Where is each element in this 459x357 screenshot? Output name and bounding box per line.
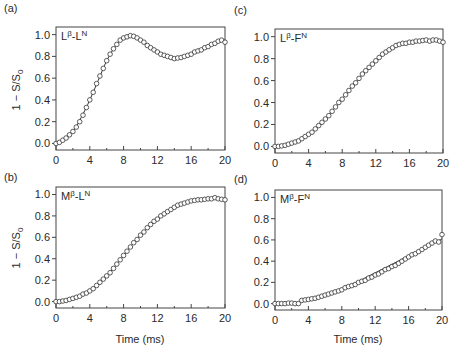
data-point xyxy=(347,88,352,93)
figure-canvas: (a)0.00.20.40.60.81.0048121620Lβ-LN(c)0.… xyxy=(0,0,459,357)
x-tick-label: 12 xyxy=(370,157,382,169)
x-tick-label: 12 xyxy=(151,154,163,166)
y-tick-label: 0.0 xyxy=(254,140,269,152)
data-points xyxy=(54,33,228,145)
x-tick-label: 12 xyxy=(151,312,163,324)
data-point xyxy=(436,240,441,245)
data-point xyxy=(333,105,338,110)
x-tick-label: 0 xyxy=(272,157,278,169)
x-tick-label: 16 xyxy=(403,157,415,169)
x-tick-label: 16 xyxy=(402,314,414,326)
series-annotation: Lβ-FN xyxy=(280,31,307,44)
x-tick-label: 4 xyxy=(87,154,93,166)
data-point xyxy=(327,113,332,118)
data-point xyxy=(74,125,79,130)
data-point xyxy=(125,249,130,254)
y-tick-label: 0.0 xyxy=(254,298,269,310)
chart-panel-a: (a)0.00.20.40.60.81.0048121620Lβ-LN xyxy=(4,2,231,166)
y-tick-label: 0.4 xyxy=(35,253,50,265)
data-points xyxy=(273,38,446,149)
data-point xyxy=(223,198,228,203)
y-tick-label: 0.8 xyxy=(254,53,269,65)
x-tick-label: 12 xyxy=(369,314,381,326)
y-tick-label: 0.6 xyxy=(35,72,50,84)
y-tick-label: 0.6 xyxy=(254,234,269,246)
x-tick-label: 4 xyxy=(305,314,311,326)
panel-label: (b) xyxy=(4,171,17,183)
y-tick-label: 1.0 xyxy=(35,188,50,200)
plot-frame xyxy=(275,29,443,153)
series-annotation: Mβ-LN xyxy=(61,189,91,202)
x-axis-label-right: Time (ms) xyxy=(333,333,382,345)
x-tick-label: 0 xyxy=(272,314,278,326)
data-point xyxy=(357,76,362,81)
data-point xyxy=(108,52,113,57)
data-point xyxy=(223,40,228,45)
y-tick-label: 0.2 xyxy=(35,274,50,286)
x-tick-label: 0 xyxy=(53,154,59,166)
chart-panel-c: (c)0.00.20.40.60.81.0048121620Lβ-FN xyxy=(234,4,449,169)
y-axis-label-top: 1 − S/S0 xyxy=(10,69,25,110)
fit-curve xyxy=(275,239,442,304)
x-tick-label: 20 xyxy=(219,312,231,324)
x-tick-label: 8 xyxy=(121,312,127,324)
data-point xyxy=(84,105,89,110)
x-tick-label: 16 xyxy=(185,312,197,324)
y-tick-label: 0.8 xyxy=(254,213,269,225)
data-point xyxy=(115,42,120,47)
y-tick-label: 1.0 xyxy=(254,31,269,43)
data-point xyxy=(135,237,140,242)
data-point xyxy=(128,245,133,250)
data-point xyxy=(330,109,335,114)
panels-container: (a)0.00.20.40.60.81.0048121620Lβ-LN(c)0.… xyxy=(4,2,449,326)
data-point xyxy=(94,81,99,86)
plot-frame xyxy=(56,27,225,150)
data-point xyxy=(340,97,345,102)
chart-panel-b: (b)0.00.20.40.60.81.0048121620Mβ-LN xyxy=(4,171,231,324)
x-tick-label: 20 xyxy=(219,154,231,166)
x-tick-label: 16 xyxy=(185,154,197,166)
data-point xyxy=(111,266,116,271)
data-point xyxy=(108,270,113,275)
y-tick-label: 0.2 xyxy=(35,116,50,128)
x-tick-label: 4 xyxy=(306,157,312,169)
y-tick-label: 0.0 xyxy=(35,137,50,149)
data-point xyxy=(88,98,93,103)
y-tick-label: 0.4 xyxy=(35,94,50,106)
plot-frame xyxy=(56,187,225,308)
series-annotation: Lβ-LN xyxy=(61,29,88,42)
fit-curve xyxy=(275,40,443,146)
y-tick-label: 0.6 xyxy=(35,231,50,243)
data-point xyxy=(81,113,86,118)
panel-label: (c) xyxy=(234,4,247,16)
data-points xyxy=(273,232,445,306)
x-axis-label-left: Time (ms) xyxy=(115,333,164,345)
y-tick-label: 0.4 xyxy=(254,97,269,109)
fit-curve xyxy=(56,199,225,302)
x-tick-label: 20 xyxy=(436,314,448,326)
x-tick-label: 0 xyxy=(53,312,59,324)
data-point xyxy=(343,93,348,98)
panel-label: (a) xyxy=(4,2,17,14)
y-tick-label: 0.4 xyxy=(254,255,269,267)
x-tick-label: 20 xyxy=(437,157,449,169)
data-point xyxy=(98,74,103,79)
data-point xyxy=(91,90,96,95)
y-tick-label: 1.0 xyxy=(35,29,50,41)
data-point xyxy=(104,58,109,63)
y-tick-label: 0.0 xyxy=(35,296,50,308)
data-point xyxy=(111,47,116,52)
data-point xyxy=(115,262,120,267)
panel-label: (d) xyxy=(234,173,247,185)
y-tick-label: 0.6 xyxy=(254,75,269,87)
data-point xyxy=(353,81,358,86)
y-tick-label: 0.8 xyxy=(35,210,50,222)
data-point xyxy=(440,232,445,237)
y-tick-label: 0.2 xyxy=(254,276,269,288)
y-tick-label: 0.8 xyxy=(35,50,50,62)
data-point xyxy=(71,129,76,134)
data-point xyxy=(101,66,106,71)
data-point xyxy=(121,253,126,258)
chart-panel-d: (d)0.00.20.40.60.81.0048121620Mβ-FN xyxy=(234,173,448,326)
x-tick-label: 4 xyxy=(87,312,93,324)
